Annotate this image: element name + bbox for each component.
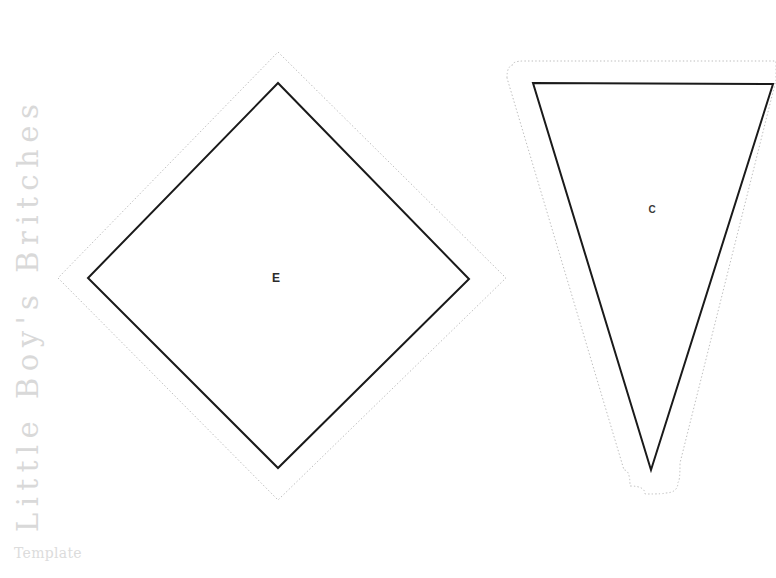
- piece-c-seam-allowance-outline: [507, 61, 776, 494]
- template-page: E C Little Boy's Britches Template: [0, 0, 776, 578]
- piece-e-seam-allowance-outline: [58, 52, 506, 500]
- piece-label-c: C: [648, 205, 655, 215]
- piece-c-group: [507, 61, 776, 494]
- piece-c-cut-line: [533, 83, 773, 470]
- piece-e-group: [58, 52, 506, 500]
- piece-label-e: E: [272, 272, 280, 284]
- pattern-canvas: [0, 0, 776, 578]
